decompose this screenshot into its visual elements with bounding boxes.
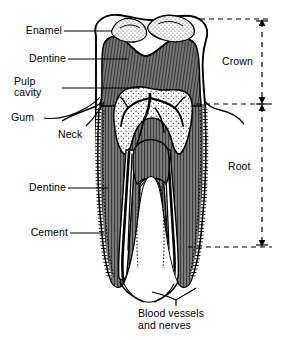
label-pulp-cavity-line2: cavity: [14, 87, 41, 99]
root-canals: [119, 140, 179, 285]
label-dentine-crown: Dentine: [2, 53, 66, 65]
label-crown: Crown: [222, 56, 253, 68]
tooth-diagram-figure: Enamel Dentine Pulp cavity Gum Neck Dent…: [0, 0, 298, 340]
label-cement: Cement: [2, 227, 68, 239]
apical-vessels: [120, 282, 178, 302]
label-neck: Neck: [58, 129, 82, 141]
label-gum: Gum: [11, 112, 34, 124]
label-dentine-root: Dentine: [2, 182, 66, 194]
label-root: Root: [228, 161, 251, 173]
label-blood-vessels-line2: and nerves: [138, 320, 191, 332]
leader-blood-right: [176, 288, 196, 300]
tooth-illustration: [0, 0, 298, 340]
label-enamel: Enamel: [2, 25, 62, 37]
label-blood-vessels-line1: Blood vessels: [138, 308, 204, 320]
